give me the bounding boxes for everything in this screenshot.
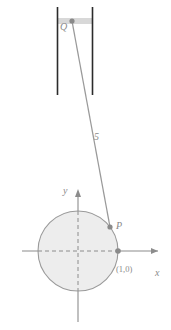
x-axis-label: x [155, 268, 159, 278]
point-q-label: Q [60, 22, 67, 32]
point-marker-icon-one-zero [115, 248, 121, 254]
point-p-label: P [116, 221, 122, 231]
unit-circle [38, 211, 118, 291]
circle-x-intercept-label: (1,0) [116, 265, 132, 274]
point-marker-icon-q [69, 18, 74, 23]
rod-length-label: 5 [94, 132, 99, 142]
point-marker-icon-p [107, 224, 112, 229]
arrow-right-icon [151, 248, 158, 254]
arrow-up-icon [75, 189, 81, 197]
figure-canvas: Q 5 P y x (1,0) [0, 0, 171, 330]
y-axis-label: y [63, 186, 67, 196]
geometry-diagram [0, 0, 171, 330]
